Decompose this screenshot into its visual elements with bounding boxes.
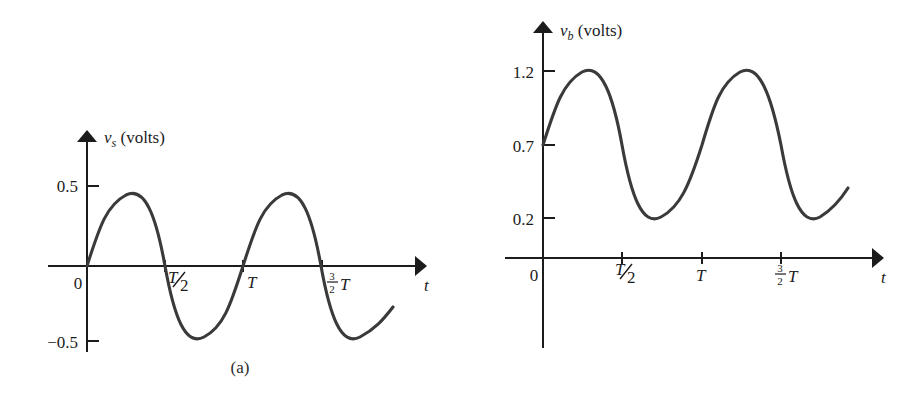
origin-label-b: 0 (530, 266, 539, 285)
y-tick-label-0.5-a: 0.5 (57, 177, 78, 196)
three-half-suffix-b: T (788, 267, 799, 286)
x-tick-label-T-b: T (696, 266, 707, 285)
panel-caption-a: (a) (180, 358, 300, 378)
three-half-suffix-a: T (340, 275, 351, 294)
chart-panel-a: vs (volts) 0.5 −0.5 0 T 2 T 3 2 T (0, 0, 460, 415)
chart-b-svg: vb (volts) 1.2 0.7 0.2 0 T 2 T 3 2 T (460, 0, 921, 415)
origin-label-a: 0 (74, 274, 83, 293)
chart-a-svg: vs (volts) 0.5 −0.5 0 T 2 T 3 2 T (0, 0, 460, 415)
y-tick-label-1.2-b: 1.2 (513, 63, 534, 82)
three-half-denominator-a: 2 (329, 283, 335, 295)
half-T-denominator-b: 2 (627, 268, 636, 287)
y-tick-label-0.2-b: 0.2 (513, 210, 534, 229)
half-T-numerator-b: T (615, 260, 626, 279)
x-axis-label-b: t (881, 268, 887, 287)
y-tick-label-neg0.5-a: −0.5 (47, 333, 78, 352)
figure-pair: vs (volts) 0.5 −0.5 0 T 2 T 3 2 T (0, 0, 921, 415)
y-axis-label-a: vs (volts) (104, 128, 165, 150)
waveform-curve-b (543, 70, 848, 219)
y-axis-units-a: (volts) (116, 128, 165, 147)
x-tick-label-T-a: T (247, 273, 258, 292)
x-tick-label-three-half-T-b: 3 2 T (775, 262, 799, 287)
three-half-numerator-b: 3 (777, 262, 783, 274)
y-axis-units-b: (volts) (574, 21, 623, 40)
x-tick-label-three-half-T-a: 3 2 T (327, 270, 351, 295)
y-axis-label-b: vb (volts) (560, 21, 622, 43)
half-T-numerator-a: T (168, 268, 179, 287)
x-axis-label-a: t (424, 276, 430, 295)
half-T-denominator-a: 2 (180, 276, 189, 295)
y-tick-label-0.7-b: 0.7 (513, 137, 535, 156)
three-half-denominator-b: 2 (777, 275, 783, 287)
three-half-numerator-a: 3 (329, 270, 335, 282)
chart-panel-b: vb (volts) 1.2 0.7 0.2 0 T 2 T 3 2 T (460, 0, 921, 415)
x-tick-label-half-T-b: T 2 (615, 260, 636, 287)
